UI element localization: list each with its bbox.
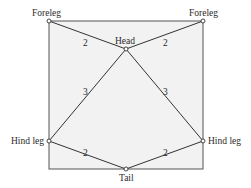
label-foreleg-left: Foreleg — [32, 8, 61, 18]
node-hindleg-left — [47, 139, 51, 143]
diagram-canvas: Foreleg Foreleg Head Hind leg Hind leg T… — [0, 0, 251, 188]
weight-hindleg-left-tail: 2 — [83, 148, 88, 158]
node-tail — [124, 167, 128, 171]
weight-head-hindleg-right: 3 — [163, 87, 168, 97]
node-head — [124, 47, 128, 51]
weight-head-hindleg-left: 3 — [83, 87, 88, 97]
label-hindleg-right: Hind leg — [208, 136, 241, 146]
node-foreleg-left — [47, 19, 51, 23]
graph-diagram: Foreleg Foreleg Head Hind leg Hind leg T… — [0, 0, 251, 188]
weight-foreleg-left-head: 2 — [83, 38, 88, 48]
label-foreleg-right: Foreleg — [189, 8, 218, 18]
weight-foreleg-right-head: 2 — [163, 38, 168, 48]
node-foreleg-right — [201, 19, 205, 23]
label-head: Head — [115, 36, 135, 46]
label-tail: Tail — [119, 173, 134, 183]
label-hindleg-left: Hind leg — [11, 136, 44, 146]
node-hindleg-right — [201, 139, 205, 143]
weight-hindleg-right-tail: 2 — [163, 148, 168, 158]
